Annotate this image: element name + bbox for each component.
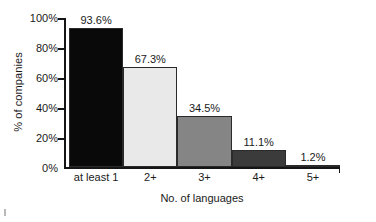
bar-slot-4-plus: 11.1% xyxy=(232,18,286,167)
bar-slot-3-plus: 34.5% xyxy=(177,18,231,167)
bar-2-plus[interactable] xyxy=(123,67,177,167)
bar-value-label-2: 34.5% xyxy=(177,102,231,114)
y-tick-label-0: 0% xyxy=(18,162,58,174)
y-tick-label-80: 80% xyxy=(18,42,58,54)
plot-area: 93.6% 67.3% 34.5% 11.1% 1.2% xyxy=(64,18,340,168)
y-tick-mark-40 xyxy=(58,108,64,110)
bar-value-label-3: 11.1% xyxy=(232,136,286,148)
scan-artifact-speck xyxy=(4,209,6,216)
y-tick-label-60: 60% xyxy=(18,72,58,84)
y-tick-mark-100 xyxy=(58,18,64,20)
bar-slot-2-plus: 67.3% xyxy=(123,18,177,167)
x-tick-label-at-least-1: at least 1 xyxy=(69,171,123,183)
y-tick-mark-60 xyxy=(58,78,64,80)
y-axis-tick-labels: 100% 80% 60% 40% 20% 0% xyxy=(18,0,58,222)
x-axis-tick-labels: at least 1 2+ 3+ 4+ 5+ xyxy=(69,171,340,183)
bar-series: 93.6% 67.3% 34.5% 11.1% 1.2% xyxy=(69,18,340,167)
x-tick-label-5-plus: 5+ xyxy=(286,171,340,183)
x-tick-label-4-plus: 4+ xyxy=(232,171,286,183)
bar-at-least-1[interactable] xyxy=(69,28,123,167)
y-tick-mark-80 xyxy=(58,48,64,50)
y-tick-label-40: 40% xyxy=(18,102,58,114)
bar-value-label-1: 67.3% xyxy=(123,53,177,65)
y-tick-mark-20 xyxy=(58,138,64,140)
x-tick-label-3-plus: 3+ xyxy=(177,171,231,183)
bar-5-plus[interactable] xyxy=(286,165,340,167)
y-axis-line xyxy=(64,18,66,168)
bar-3-plus[interactable] xyxy=(177,116,231,167)
bar-4-plus[interactable] xyxy=(232,150,286,167)
bar-value-label-0: 93.6% xyxy=(69,14,123,26)
x-tick-label-2-plus: 2+ xyxy=(123,171,177,183)
x-axis-title: No. of languages xyxy=(64,192,340,204)
bar-slot-at-least-1: 93.6% xyxy=(69,18,123,167)
bar-value-label-4: 1.2% xyxy=(286,151,340,163)
y-tick-label-20: 20% xyxy=(18,132,58,144)
bar-chart: % of companies 100% 80% 60% 40% 20% 0% 9… xyxy=(0,0,376,222)
x-axis-line xyxy=(64,167,340,169)
bar-slot-5-plus: 1.2% xyxy=(286,18,340,167)
y-tick-label-100: 100% xyxy=(18,12,58,24)
